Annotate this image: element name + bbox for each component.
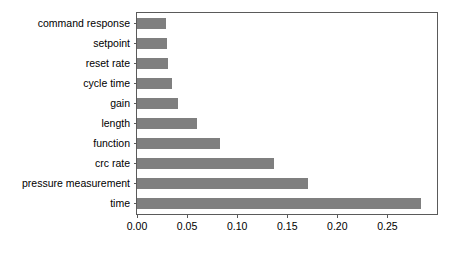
y-axis-label: cycle time — [83, 78, 130, 89]
bar-row: cycle time — [137, 73, 437, 93]
y-axis-label: setpoint — [93, 38, 130, 49]
y-axis-label: command response — [38, 18, 130, 29]
bar[interactable] — [137, 38, 167, 49]
bar[interactable] — [137, 158, 274, 169]
bar[interactable] — [137, 138, 220, 149]
y-axis-tick — [134, 123, 138, 124]
x-axis-tick — [287, 214, 288, 218]
bar[interactable] — [137, 198, 421, 209]
bar[interactable] — [137, 118, 197, 129]
y-axis-label: gain — [110, 98, 130, 109]
y-axis-tick — [134, 83, 138, 84]
bar[interactable] — [137, 178, 308, 189]
x-axis-tick-label: 0.15 — [277, 220, 297, 232]
y-axis-label: reset rate — [86, 58, 130, 69]
bar[interactable] — [137, 58, 168, 69]
bar-row: command response — [137, 13, 437, 33]
bar[interactable] — [137, 78, 172, 89]
x-axis-tick-label: 0.05 — [177, 220, 197, 232]
y-axis-tick — [134, 203, 138, 204]
plot-area: command responsesetpointreset ratecycle … — [136, 12, 438, 215]
y-axis-tick — [134, 183, 138, 184]
bar-row: reset rate — [137, 53, 437, 73]
x-axis-tick — [137, 214, 138, 218]
y-axis-label: crc rate — [95, 158, 130, 169]
y-axis-tick — [134, 23, 138, 24]
y-axis-label: length — [101, 118, 130, 129]
y-axis-tick — [134, 43, 138, 44]
x-axis-tick-label: 0.00 — [127, 220, 147, 232]
bar-chart: command responsesetpointreset ratecycle … — [0, 0, 458, 253]
y-axis-label: function — [93, 138, 130, 149]
x-axis-tick — [187, 214, 188, 218]
y-axis-label: time — [110, 198, 130, 209]
bar[interactable] — [137, 18, 166, 29]
x-axis-tick — [337, 214, 338, 218]
y-axis-tick — [134, 143, 138, 144]
x-axis-tick — [237, 214, 238, 218]
x-axis-tick-label: 0.20 — [327, 220, 347, 232]
bar-row: gain — [137, 93, 437, 113]
bar[interactable] — [137, 98, 178, 109]
x-axis-tick-label: 0.25 — [377, 220, 397, 232]
x-axis-tick — [387, 214, 388, 218]
bar-row: crc rate — [137, 154, 437, 174]
bar-row: setpoint — [137, 33, 437, 53]
bar-row: length — [137, 114, 437, 134]
y-axis-tick — [134, 103, 138, 104]
bar-row: function — [137, 134, 437, 154]
bar-row: pressure measurement — [137, 174, 437, 194]
y-axis-tick — [134, 163, 138, 164]
x-axis-tick-label: 0.10 — [227, 220, 247, 232]
y-axis-label: pressure measurement — [22, 178, 130, 189]
bar-row: time — [137, 194, 437, 214]
y-axis-tick — [134, 63, 138, 64]
